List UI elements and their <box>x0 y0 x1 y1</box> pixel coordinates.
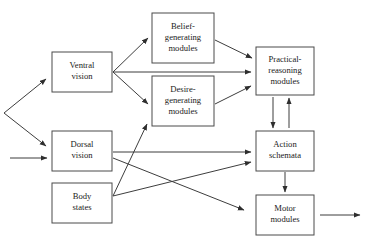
edge-body-to-action <box>113 162 251 196</box>
node-label-motor-modules: Motor <box>274 203 296 213</box>
node-belief-generating-modules[interactable]: Belief-generatingmodules <box>152 13 214 63</box>
node-label-practical-reasoning-modules: reasoning <box>268 65 302 75</box>
edge-belief-to-practical <box>215 40 252 58</box>
node-label-practical-reasoning-modules: Practical- <box>269 54 302 64</box>
node-label-body-states: states <box>72 202 92 212</box>
node-label-practical-reasoning-modules: modules <box>270 76 300 86</box>
node-label-ventral-vision: Ventral <box>70 60 95 70</box>
node-label-belief-generating-modules: modules <box>168 43 198 53</box>
node-label-desire-generating-modules: Desire- <box>170 84 195 94</box>
node-label-body-states: Body <box>73 191 92 201</box>
edge-desire-to-practical <box>215 86 251 104</box>
node-desire-generating-modules[interactable]: Desire-generatingmodules <box>152 76 214 126</box>
node-label-dorsal-vision: vision <box>71 150 93 160</box>
node-label-ventral-vision: vision <box>71 71 93 81</box>
node-action-schemata[interactable]: Actionschemata <box>256 131 314 171</box>
node-label-action-schemata: schemata <box>269 150 301 160</box>
edge-dorsal-to-motor <box>113 158 244 210</box>
architecture-diagram: VentralvisionBelief-generatingmodulesDes… <box>0 0 366 252</box>
edge-input-fork-to-ventral <box>4 79 46 113</box>
edge-ventral-to-belief <box>113 38 148 72</box>
node-label-desire-generating-modules: modules <box>168 106 198 116</box>
node-label-action-schemata: Action <box>273 139 297 149</box>
node-label-desire-generating-modules: generating <box>165 95 202 105</box>
node-motor-modules[interactable]: Motormodules <box>256 195 314 235</box>
edge-ventral-to-desire <box>113 72 148 104</box>
node-label-motor-modules: modules <box>270 214 300 224</box>
node-label-belief-generating-modules: Belief- <box>171 21 195 31</box>
node-label-belief-generating-modules: generating <box>165 32 202 42</box>
node-ventral-vision[interactable]: Ventralvision <box>52 52 112 92</box>
node-body-states[interactable]: Bodystates <box>52 183 112 223</box>
edge-input-fork-to-dorsal <box>4 113 46 146</box>
node-practical-reasoning-modules[interactable]: Practical-reasoningmodules <box>256 47 314 95</box>
node-label-dorsal-vision: Dorsal <box>71 139 95 149</box>
nodes-layer: VentralvisionBelief-generatingmodulesDes… <box>52 13 314 235</box>
diagram-canvas: VentralvisionBelief-generatingmodulesDes… <box>0 0 366 252</box>
node-dorsal-vision[interactable]: Dorsalvision <box>52 131 112 171</box>
